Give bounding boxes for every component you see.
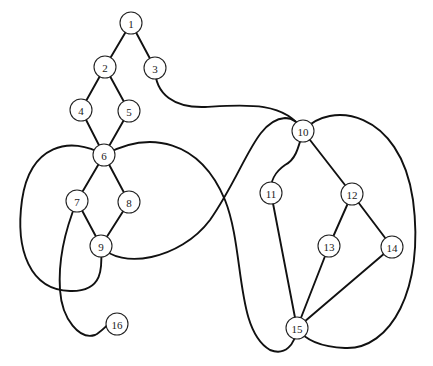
node-2: 2 — [94, 56, 116, 78]
node-label: 5 — [126, 106, 132, 118]
node-1: 1 — [120, 12, 142, 34]
node-label: 16 — [112, 319, 124, 331]
node-label: 9 — [98, 241, 104, 253]
node-label: 7 — [74, 196, 80, 208]
node-7: 7 — [66, 190, 88, 212]
node-5: 5 — [118, 100, 140, 122]
edge-11-15 — [271, 193, 297, 328]
edge-6-9 — [20, 145, 104, 291]
node-label: 11 — [266, 188, 277, 200]
node-label: 14 — [387, 242, 399, 254]
node-15: 15 — [286, 317, 308, 339]
edge-3-10 — [155, 68, 303, 131]
edge-14-15 — [297, 247, 392, 328]
node-label: 4 — [78, 105, 84, 117]
node-6: 6 — [93, 144, 115, 166]
node-9: 9 — [90, 235, 112, 257]
node-11: 11 — [260, 182, 282, 204]
node-10: 10 — [292, 120, 314, 142]
node-label: 8 — [126, 197, 132, 209]
node-12: 12 — [341, 183, 363, 205]
edge-6-15 — [104, 142, 297, 351]
node-4: 4 — [70, 99, 92, 121]
graph-diagram: 12345678910111213141516 — [0, 0, 433, 366]
node-label: 2 — [102, 62, 108, 74]
node-3: 3 — [144, 57, 166, 79]
node-label: 13 — [324, 241, 336, 253]
edge-10-12 — [303, 131, 352, 194]
node-label: 3 — [152, 63, 158, 75]
node-label: 1 — [128, 18, 134, 30]
nodes-layer: 12345678910111213141516 — [66, 12, 403, 339]
node-14: 14 — [381, 236, 403, 258]
node-label: 12 — [347, 189, 358, 201]
node-16: 16 — [106, 313, 128, 335]
node-label: 10 — [298, 126, 310, 138]
node-label: 6 — [101, 150, 107, 162]
node-label: 15 — [292, 323, 304, 335]
edge-13-15 — [297, 246, 329, 328]
node-13: 13 — [318, 235, 340, 257]
node-8: 8 — [118, 191, 140, 213]
